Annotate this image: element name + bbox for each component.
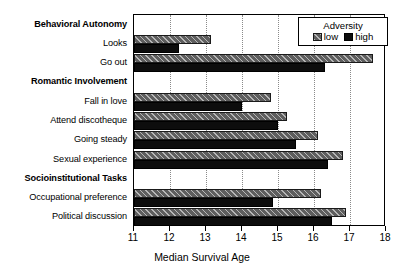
- x-axis-tick: [205, 226, 206, 231]
- category-label: Fall in love: [0, 96, 127, 106]
- legend-swatch-low-icon: [313, 33, 322, 41]
- x-axis-tick-label: 11: [128, 232, 138, 243]
- legend: Adversity low high: [298, 17, 388, 46]
- x-axis-tick-label: 14: [235, 232, 246, 243]
- bar-low: [134, 208, 346, 217]
- x-axis-tick: [133, 226, 134, 231]
- x-axis-title: Median Survival Age: [0, 251, 404, 263]
- category-label-column: Behavioral AutonomyLooksGo outRomantic I…: [0, 14, 127, 226]
- median-survival-age-bar-chart: Behavioral AutonomyLooksGo outRomantic I…: [0, 0, 404, 276]
- category-label: Political discussion: [0, 211, 127, 221]
- bar-low: [134, 131, 318, 140]
- category-label: Going steady: [0, 134, 127, 144]
- category-label: Go out: [0, 57, 127, 67]
- category-label: Occupational preference: [0, 192, 127, 202]
- bar-low: [134, 151, 343, 160]
- legend-items: low high: [302, 32, 384, 42]
- bar-high: [134, 121, 278, 130]
- legend-entry-high: high: [344, 32, 373, 42]
- bar-high: [134, 198, 273, 207]
- category-label: Sexual experience: [0, 154, 127, 164]
- bar-low: [134, 54, 373, 63]
- legend-swatch-high-icon: [344, 33, 353, 41]
- x-axis-tick: [277, 226, 278, 231]
- category-group-header: Behavioral Autonomy: [0, 19, 127, 29]
- bar-low: [134, 189, 321, 198]
- bar-low: [134, 112, 287, 121]
- x-axis-tick-label: 13: [199, 232, 210, 243]
- category-label: Attend discotheque: [0, 115, 127, 125]
- x-axis-tick-label: 18: [379, 232, 390, 243]
- bar-high: [134, 217, 332, 226]
- bar-high: [134, 160, 328, 169]
- bar-high: [134, 44, 179, 53]
- x-axis-tick: [241, 226, 242, 231]
- legend-label-high: high: [355, 32, 373, 42]
- bar-high: [134, 140, 296, 149]
- x-axis-tick: [385, 226, 386, 231]
- bar-high: [134, 102, 242, 111]
- x-axis-tick-label: 15: [271, 232, 282, 243]
- x-axis-tick: [349, 226, 350, 231]
- legend-title: Adversity: [302, 20, 384, 31]
- category-label: Looks: [0, 38, 127, 48]
- bar-low: [134, 35, 211, 44]
- x-axis-tick: [313, 226, 314, 231]
- category-group-header: Socioinstitutional Tasks: [0, 173, 127, 183]
- gridline: [350, 15, 351, 225]
- category-group-header: Romantic Involvement: [0, 76, 127, 86]
- x-axis-tick-label: 17: [343, 232, 354, 243]
- x-axis-tick-label: 16: [307, 232, 318, 243]
- bar-low: [134, 93, 271, 102]
- legend-label-low: low: [324, 32, 338, 42]
- x-axis-tick: [169, 226, 170, 231]
- legend-entry-low: low: [313, 32, 338, 42]
- x-axis-tick-label: 12: [163, 232, 174, 243]
- bar-high: [134, 63, 325, 72]
